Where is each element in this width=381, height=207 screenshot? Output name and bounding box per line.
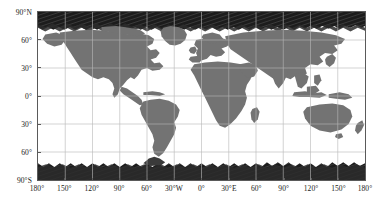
ytick-mark-30S [38, 124, 41, 125]
map-plot-area [37, 11, 366, 181]
ytick-label-60S: 60° [21, 148, 32, 157]
xtick-label-60W: 60° [141, 184, 152, 193]
xtick-mark-150E [338, 178, 339, 181]
xtick-mark-120W [92, 178, 93, 181]
xtick-mark-180W [37, 178, 38, 181]
xtick-mark-180E [365, 178, 366, 181]
ytick-label-60N: 60° [21, 36, 32, 45]
xtick-label-90E: 90° [278, 184, 289, 193]
xtick-mark-30E [229, 178, 230, 181]
map-canvas [38, 12, 365, 180]
ytick-mark-90N [38, 11, 41, 12]
xtick-label-90W: 90° [114, 184, 125, 193]
xtick-label-150W: 150° [57, 184, 72, 193]
xtick-label-180E: 180° [358, 184, 373, 193]
ytick-mark-60S [38, 152, 41, 153]
xtick-label-120W: 120° [84, 184, 99, 193]
xtick-mark-30W [174, 178, 175, 181]
ytick-label-90N: 90°N [16, 8, 32, 17]
xtick-label-180W: 180° [30, 184, 45, 193]
xtick-label-0: 0° [198, 184, 205, 193]
xtick-mark-60E [256, 178, 257, 181]
ytick-label-30N: 30° [21, 64, 32, 73]
world-map-figure: 90°N 60° 30° 0° 30° 60° 90°S 180° 150° 1… [0, 0, 381, 207]
ytick-label-0: 0° [25, 92, 32, 101]
xtick-label-150E: 150° [331, 184, 346, 193]
xtick-mark-150W [64, 178, 65, 181]
xtick-label-60E: 60° [251, 184, 262, 193]
ytick-mark-60N [38, 39, 41, 40]
xtick-label-30W: 30°W [165, 184, 183, 193]
xtick-mark-0 [201, 178, 202, 181]
ytick-mark-90S [38, 180, 41, 181]
xtick-mark-120E [311, 178, 312, 181]
xtick-label-30E: 30°E [221, 184, 236, 193]
ytick-mark-30N [38, 67, 41, 68]
ytick-mark-0 [38, 96, 41, 97]
xtick-mark-60W [147, 178, 148, 181]
ytick-label-30S: 30° [21, 120, 32, 129]
xtick-mark-90W [119, 178, 120, 181]
xtick-mark-90E [284, 178, 285, 181]
xtick-label-120E: 120° [304, 184, 319, 193]
